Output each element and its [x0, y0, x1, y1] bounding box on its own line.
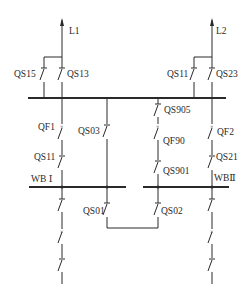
label-qs11-top: QS11: [167, 70, 188, 80]
arrow-up-icon: [60, 18, 64, 26]
qs03-switch-icon: [103, 126, 107, 137]
label-qs13: QS13: [67, 70, 89, 80]
qs905-switch-icon: [154, 105, 158, 116]
label-qs03: QS03: [78, 127, 100, 137]
label-qs21: QS21: [216, 153, 238, 163]
line-label-l2: L2: [216, 27, 227, 37]
label-qs23: QS23: [216, 70, 238, 80]
label-qs901: QS901: [163, 167, 189, 177]
line-l2-feeder: × ×: [190, 18, 215, 284]
label-qs02: QS02: [161, 207, 183, 217]
label-qs905: QS905: [164, 106, 190, 116]
label-qf90: QF90: [163, 137, 185, 147]
label-qf1: QF1: [38, 123, 55, 133]
qs11-top-switch-icon: [190, 69, 194, 80]
qs02-switch-icon: [154, 204, 158, 215]
label-qf2: QF2: [217, 128, 234, 138]
qs21-switch-icon: [208, 157, 212, 168]
bus-label-wb1: WB Ⅰ: [31, 175, 52, 185]
label-qs15: QS15: [14, 70, 36, 80]
bus-coupler: [103, 187, 161, 228]
label-qs01: QS01: [83, 207, 105, 217]
line-label-l1: L1: [69, 27, 80, 37]
qs23-switch-icon: [208, 69, 212, 80]
label-qs11-bottom: QS11: [34, 153, 55, 163]
qs15-switch-icon: [40, 69, 44, 80]
qs03-branch: [103, 98, 110, 189]
qs901-switch-icon: [154, 162, 158, 173]
line-l1-feeder: × ×: [40, 18, 65, 284]
single-line-diagram: × × ×: [0, 0, 247, 297]
bypass-breaker-branch: ×: [154, 98, 161, 189]
arrow-up-icon: [210, 18, 214, 26]
qs11-bottom-switch-icon: [58, 157, 62, 168]
bus-label-wb2: WBⅡ: [214, 174, 236, 184]
qs13-switch-icon: [58, 69, 62, 80]
